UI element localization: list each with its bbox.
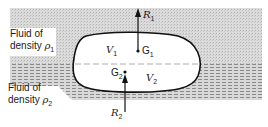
density-text: density: [10, 40, 44, 51]
lower-fluid-label: Fluid of density ρ2: [8, 82, 52, 110]
rho-subscript: 2: [48, 100, 52, 107]
lower-fluid-label-line2: density ρ2: [8, 94, 52, 110]
g-subscript: 2: [119, 73, 123, 80]
centroid-g1-dot: [136, 49, 139, 52]
g-symbol: G: [111, 67, 119, 78]
lower-fluid-label-line1: Fluid of: [8, 82, 52, 94]
upper-fluid-label-line2: density ρ1: [10, 40, 54, 56]
force-r1-label: R1: [143, 9, 154, 25]
v-subscript: 1: [113, 50, 117, 57]
centroid-g2-dot: [123, 70, 126, 73]
density-text: density: [8, 94, 42, 105]
v-subscript: 2: [153, 78, 157, 85]
centroid-g2-label: G2: [111, 67, 123, 83]
force-r2-label: R2: [111, 107, 122, 123]
g-subscript: 1: [150, 51, 154, 58]
r-subscript: 2: [119, 113, 123, 120]
r-symbol: R: [111, 107, 119, 118]
volume-v1-label: V1: [106, 44, 117, 60]
upper-fluid-label: Fluid of density ρ1: [8, 28, 56, 56]
floating-body-outline: [73, 32, 200, 92]
r-subscript: 1: [151, 15, 155, 22]
r-symbol: R: [143, 9, 151, 20]
volume-v2-label: V2: [146, 72, 157, 88]
rho-subscript: 1: [50, 46, 54, 53]
upper-fluid-label-line1: Fluid of: [10, 28, 54, 40]
g-symbol: G: [142, 45, 150, 56]
centroid-g1-label: G1: [142, 45, 154, 61]
